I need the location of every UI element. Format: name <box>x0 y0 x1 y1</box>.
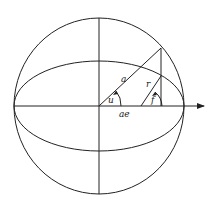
label-r: r <box>146 79 151 89</box>
label-u: u <box>108 95 114 105</box>
label-f: f <box>150 95 156 105</box>
orbit-diagram: a r u f ae <box>0 0 212 203</box>
label-ae: ae <box>119 109 130 119</box>
label-a: a <box>121 74 126 84</box>
